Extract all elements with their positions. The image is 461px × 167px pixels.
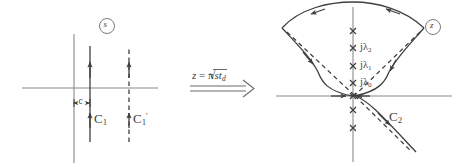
pole-label-jlambda0-text: jλ <box>360 76 368 87</box>
contour-diagram-svg <box>0 0 461 167</box>
contour-c2-arrow-left-branch <box>303 52 313 64</box>
contour-c1-letter: C <box>94 111 103 126</box>
contour-c1-label: C1 <box>94 112 107 127</box>
s-plane-badge-label: s <box>104 20 108 29</box>
equation-equals: = <box>199 69 205 81</box>
asymptote-lower-right <box>355 96 411 151</box>
contour-c2-letter: C <box>389 109 398 124</box>
contour-c1prime-label: C1' <box>133 112 148 127</box>
offset-c-label: c <box>79 97 83 107</box>
pole-label-jlambda1-text: jλ <box>360 59 368 70</box>
pole-label-jlambda0-sub: 0 <box>368 81 372 89</box>
pole-label-jlambda2-sub: 2 <box>368 46 372 54</box>
contour-c2-label: C2 <box>389 110 402 125</box>
asymptote-upper-left <box>287 32 355 96</box>
contour-c1prime-prime: ' <box>146 111 148 121</box>
s-plane-group <box>22 34 158 163</box>
transform-equation: z = π √ std <box>192 69 227 83</box>
pole-label-jlambda0: jλ0 <box>360 77 372 89</box>
equation-radical: √ std <box>213 69 227 83</box>
pole-label-jlambda1: jλ1 <box>360 60 372 72</box>
contour-c1-subscript: 1 <box>103 117 107 127</box>
z-plane-badge-label: z <box>430 21 434 30</box>
transform-arrow-head <box>243 80 254 97</box>
equation-radicand-subscript: d <box>222 74 226 83</box>
equation-lhs: z <box>192 69 196 81</box>
pole-label-jlambda1-sub: 1 <box>368 64 372 72</box>
contour-c2-left-branch <box>282 28 352 96</box>
contour-c1prime-letter: C <box>133 111 142 126</box>
pole-label-jlambda2-text: jλ <box>360 41 368 52</box>
contour-c2-arrow-top-left <box>311 9 325 14</box>
contour-c2-subscript: 2 <box>398 115 402 125</box>
contour-c2-arrow-right-branch <box>390 60 396 71</box>
figure-canvas: s C1 C1' c z = π √ std z jλ2 jλ1 jλ0 C2 <box>0 0 461 167</box>
pole-label-jlambda2: jλ2 <box>360 42 372 54</box>
